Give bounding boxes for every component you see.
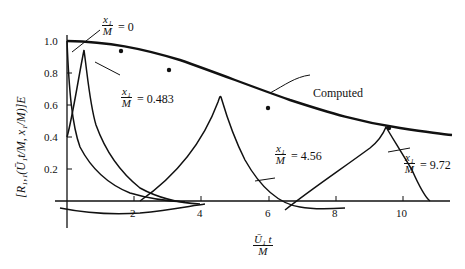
annotation-x1m-0483: x₁ M	[121, 86, 132, 109]
annotation-x1m-456: x₁ M	[275, 143, 286, 166]
x-tick-2: 2	[130, 207, 136, 219]
y-tick-1.0: 1.0	[44, 35, 58, 47]
y-tick-0.2: 0.2	[44, 163, 58, 175]
x-tick-10: 10	[396, 207, 407, 219]
annotation-x1m-972-value: = 9.72	[420, 158, 451, 173]
y-axis-label: [R₁,₁(Ū₁t/M, x₁/M)]E	[14, 96, 29, 198]
annotation-x1m-0: x₁ M	[102, 14, 113, 37]
x-tick-6: 6	[265, 207, 271, 219]
chart-plot	[0, 0, 465, 269]
annotation-x1m-0483-value: = 0.483	[137, 92, 174, 107]
annotation-x1m-456-value: = 4.56	[291, 149, 322, 164]
annotation-x1m-0-value: = 0	[118, 20, 134, 35]
x-axis-label: Ū₁ t M	[253, 234, 273, 257]
y-tick-0.6: 0.6	[44, 99, 58, 111]
y-tick-0.4: 0.4	[44, 131, 58, 143]
x-tick-4: 4	[197, 207, 203, 219]
annotation-computed: Computed	[313, 86, 363, 101]
curve-x1m-0483	[67, 50, 200, 204]
x-tick-8: 8	[332, 207, 338, 219]
y-tick-0.8: 0.8	[44, 67, 58, 79]
annotation-x1m-972: x₁ M	[404, 152, 415, 175]
